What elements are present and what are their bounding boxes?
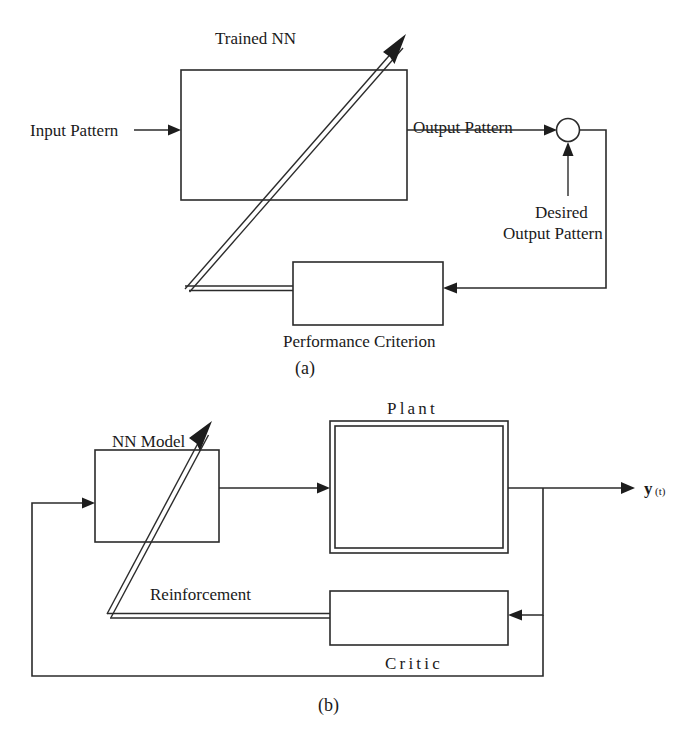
label-nn-model: NN Model (112, 432, 185, 451)
arrowhead-output-pattern (544, 125, 557, 136)
wire-output-to-critic (521, 488, 543, 615)
label-desired-line2: Output Pattern (503, 224, 603, 243)
block-diagram-svg: Trained NN Input Pattern Output Pattern … (0, 0, 677, 737)
block-nn-model (95, 450, 219, 542)
label-output-pattern: Output Pattern (413, 118, 513, 137)
label-plant: Plant (387, 399, 438, 418)
label-input-pattern: Input Pattern (30, 121, 119, 140)
summing-junction (557, 119, 580, 142)
label-desired-line1: Desired (535, 203, 588, 222)
block-trained-nn (181, 70, 407, 200)
arrowhead-output-to-critic (508, 610, 522, 621)
arrowhead-error-feedback (443, 283, 457, 294)
label-y-of-t-main: y (644, 479, 653, 498)
label-critic: Critic (385, 654, 443, 673)
block-performance-criterion (293, 262, 443, 325)
arrowhead-plant-output (621, 482, 635, 494)
block-critic (330, 591, 508, 645)
arrowhead-desired-output (563, 142, 574, 156)
block-plant-inner (335, 426, 503, 548)
label-trained-nn: Trained NN (215, 29, 296, 48)
label-performance-criterion: Performance Criterion (283, 332, 436, 351)
caption-b: (b) (318, 695, 339, 716)
arrowhead-outer-feedback (82, 498, 95, 509)
label-y-of-t-sub: (t) (655, 485, 666, 498)
figure-root: Trained NN Input Pattern Output Pattern … (0, 0, 677, 737)
caption-a: (a) (295, 358, 315, 379)
wire-performance-to-nn (185, 286, 293, 291)
arrowhead-input-pattern (168, 125, 181, 136)
label-reinforcement: Reinforcement (150, 585, 251, 604)
arrowhead-nn-to-plant (317, 483, 330, 494)
